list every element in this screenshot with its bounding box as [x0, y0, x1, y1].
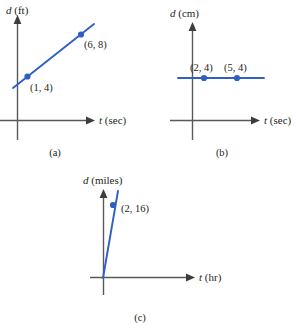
- panel-a-caption: (a): [49, 147, 61, 159]
- panel-a-point-label-2: (6, 8): [84, 39, 107, 51]
- panel-b-y-axis-label: d (cm): [170, 7, 199, 20]
- panel-c-y-axis-label: d (miles): [83, 174, 123, 187]
- panel-a: d (ft) t (sec) (1, 4) (6, 8) (a): [0, 4, 127, 159]
- panel-c-point-label-1: (2, 16): [121, 203, 149, 215]
- panel-b-x-axis-arrow: [251, 117, 260, 125]
- panel-c-x-axis-label: t (hr): [199, 271, 222, 284]
- panel-a-x-axis-arrow: [86, 117, 95, 125]
- panel-b-y-axis-arrow: [189, 22, 197, 31]
- panel-c-y-axis-arrow: [100, 189, 108, 198]
- panel-b-point-label-1: (2, 4): [190, 62, 213, 74]
- panel-a-point-label-1: (1, 4): [30, 82, 53, 94]
- panel-c: d (miles) t (hr) (2, 16) (c): [83, 174, 222, 324]
- panel-c-data-point-1: [110, 202, 116, 208]
- panel-c-caption: (c): [134, 312, 146, 324]
- graph-figure: d (ft) t (sec) (1, 4) (6, 8) (a) d (cm) …: [0, 0, 298, 330]
- panel-b-data-point-1: [201, 75, 207, 81]
- panel-a-x-axis-label: t (sec): [99, 114, 127, 127]
- panel-b-point-label-2: (5, 4): [224, 62, 247, 74]
- panel-a-data-point-2: [78, 31, 84, 37]
- panel-a-data-point-1: [24, 73, 30, 79]
- panel-c-x-axis-arrow: [186, 274, 195, 282]
- panel-b-caption: (b): [216, 147, 229, 159]
- panel-a-y-axis-label: d (ft): [6, 4, 29, 17]
- panel-b: d (cm) t (sec) (2, 4) (5, 4) (b): [170, 7, 292, 159]
- panel-a-y-axis-arrow: [14, 15, 22, 24]
- panel-b-x-axis-label: t (sec): [264, 114, 292, 127]
- panel-b-data-point-2: [234, 75, 240, 81]
